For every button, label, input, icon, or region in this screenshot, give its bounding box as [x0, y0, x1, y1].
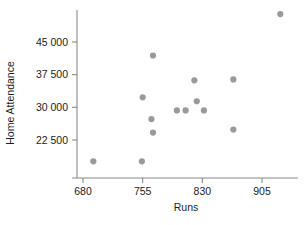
x-tick-label: 830: [194, 185, 212, 197]
y-axis-ticks: [72, 42, 77, 140]
data-point: [183, 107, 189, 113]
x-axis-ticks: [83, 178, 262, 183]
y-tick-label: 22 500: [36, 134, 68, 146]
y-tick-label: 45 000: [36, 36, 68, 48]
data-point: [150, 52, 156, 58]
chart-canvas: 22 50030 00037 50045 000 680755830905 Ho…: [0, 0, 305, 225]
x-axis-tick-labels: 680755830905: [74, 185, 271, 197]
data-point: [230, 126, 236, 132]
data-point: [150, 129, 156, 135]
y-tick-label: 30 000: [36, 101, 68, 113]
data-point: [194, 98, 200, 104]
data-point: [191, 77, 197, 83]
data-points-group: [90, 11, 283, 164]
data-point: [174, 107, 180, 113]
y-tick-label: 37 500: [36, 68, 68, 80]
y-axis-tick-labels: 22 50030 00037 50045 000: [36, 36, 68, 146]
data-point: [201, 107, 207, 113]
x-tick-label: 905: [253, 185, 271, 197]
data-point: [277, 11, 283, 17]
data-point: [230, 76, 236, 82]
x-axis-title: Runs: [174, 201, 199, 213]
data-point: [148, 116, 154, 122]
y-axis-title: Home Attendance: [4, 61, 16, 145]
x-tick-label: 755: [134, 185, 152, 197]
data-point: [139, 158, 145, 164]
scatter-plot-figure: 22 50030 00037 50045 000 680755830905 Ho…: [0, 0, 305, 225]
data-point: [140, 94, 146, 100]
data-point: [90, 158, 96, 164]
x-tick-label: 680: [74, 185, 92, 197]
